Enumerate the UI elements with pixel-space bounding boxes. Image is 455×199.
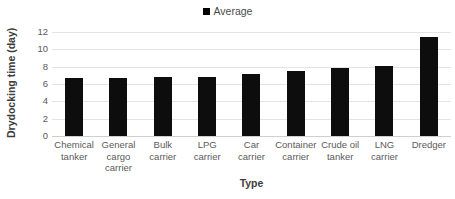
bar[interactable]: [198, 77, 216, 136]
x-tick-label: LPGcarrier: [185, 139, 229, 162]
y-axis-title: Drydocking time (day): [3, 30, 19, 138]
x-tick-label: Dredger: [407, 139, 451, 151]
y-tick-label: 4: [26, 96, 48, 106]
y-axis-tick-labels: 024681012: [26, 27, 48, 141]
bar[interactable]: [154, 77, 172, 136]
bar-chart: Average Drydocking time (day) 024681012 …: [0, 0, 455, 199]
x-tick-label-line: LPG: [185, 139, 229, 151]
x-tick-label: Bulkcarrier: [141, 139, 185, 162]
x-tick-label-line: Car: [229, 139, 273, 151]
bar[interactable]: [331, 68, 349, 136]
y-tick-label: 8: [26, 62, 48, 72]
x-axis-tick-labels: ChemicaltankerGeneralcargocarrierBulkcar…: [52, 139, 451, 175]
x-axis-line: [52, 136, 451, 137]
x-tick-label: LNGcarrier: [362, 139, 406, 162]
x-tick-label-line: Bulk: [141, 139, 185, 151]
x-tick-label-line: Dredger: [407, 139, 451, 151]
bar-slot: [52, 32, 96, 136]
x-tick-label: Crude oiltanker: [318, 139, 362, 162]
x-tick-label-line: carrier: [274, 151, 318, 163]
x-tick-label: Generalcargocarrier: [96, 139, 140, 174]
plot-area: [52, 32, 451, 136]
x-tick-label-line: Container: [274, 139, 318, 151]
x-tick-label-line: carrier: [185, 151, 229, 163]
x-tick-label: Carcarrier: [229, 139, 273, 162]
x-axis-title: Type: [52, 177, 451, 189]
bar-slot: [362, 32, 406, 136]
x-tick-label-line: carrier: [362, 151, 406, 163]
bar[interactable]: [287, 71, 305, 136]
y-tick-label: 0: [26, 131, 48, 141]
x-tick-label-line: tanker: [318, 151, 362, 163]
x-tick-label-line: LNG: [362, 139, 406, 151]
bar-slot: [96, 32, 140, 136]
x-tick-label-line: Crude oil: [318, 139, 362, 151]
bar[interactable]: [109, 78, 127, 136]
bar-slot: [274, 32, 318, 136]
bar[interactable]: [242, 74, 260, 136]
y-tick-label: 2: [26, 114, 48, 124]
y-tick-label: 6: [26, 79, 48, 89]
bar-slot: [229, 32, 273, 136]
bar-slot: [141, 32, 185, 136]
legend-swatch-icon: [203, 8, 210, 15]
bar-slot: [185, 32, 229, 136]
legend-label: Average: [214, 6, 253, 17]
x-tick-label: Containercarrier: [274, 139, 318, 162]
y-tick-label: 12: [26, 27, 48, 37]
x-tick-label-line: carrier: [229, 151, 273, 163]
x-tick-label-line: Chemical: [52, 139, 96, 151]
x-tick-label-line: carrier: [96, 162, 140, 174]
bar-slot: [318, 32, 362, 136]
bars-layer: [52, 32, 451, 136]
chart-legend: Average: [0, 6, 455, 17]
x-tick-label-line: tanker: [52, 151, 96, 163]
bar[interactable]: [65, 78, 83, 137]
bar[interactable]: [375, 66, 393, 136]
y-tick-label: 10: [26, 44, 48, 54]
x-tick-label-line: General: [96, 139, 140, 151]
x-tick-label-line: cargo: [96, 151, 140, 163]
x-tick-label-line: carrier: [141, 151, 185, 163]
bar[interactable]: [420, 37, 438, 136]
x-tick-label: Chemicaltanker: [52, 139, 96, 162]
bar-slot: [407, 32, 451, 136]
legend-entry-average[interactable]: Average: [203, 6, 253, 17]
